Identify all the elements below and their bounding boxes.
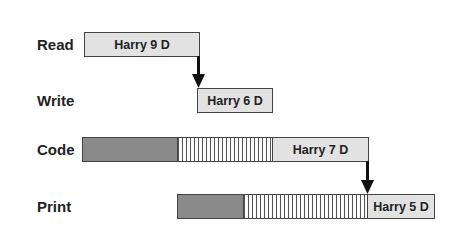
arrow-read-to-write: [192, 56, 205, 88]
arrow-code-to-print: [361, 161, 374, 194]
dependency-arrows: [0, 0, 463, 237]
